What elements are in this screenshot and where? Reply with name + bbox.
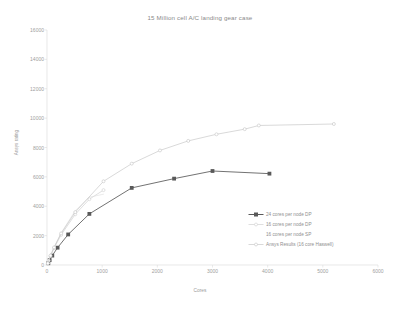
data-point (56, 246, 60, 250)
data-point (102, 189, 105, 192)
data-point (268, 172, 272, 176)
data-point (332, 123, 335, 126)
legend-item[interactable]: Ansys Results (16 core Haswell) (248, 239, 358, 249)
data-point (172, 177, 176, 181)
series-line-2 (48, 194, 104, 263)
legend-label: 24 cores per node DP (266, 210, 312, 219)
legend-swatch-icon (248, 230, 264, 239)
data-point (49, 254, 52, 257)
series-line-0 (48, 171, 269, 263)
data-point (158, 149, 161, 152)
series-2 (48, 194, 104, 263)
legend-swatch-icon (248, 220, 264, 229)
legend-swatch-icon (248, 240, 264, 249)
data-point (187, 139, 190, 142)
legend-item[interactable]: 16 cores per node SP (248, 229, 358, 239)
data-point (243, 128, 246, 131)
legend-label: 16 cores per node DP (266, 220, 312, 229)
data-point (130, 186, 134, 190)
data-point (46, 262, 49, 265)
legend-item[interactable]: 16 cores per node DP (248, 219, 358, 229)
legend-label: Ansys Results (16 core Haswell) (266, 240, 333, 249)
legend-item[interactable]: 24 cores per node DP (248, 209, 358, 219)
data-point (66, 233, 70, 237)
legend-label: 16 cores per node SP (266, 230, 311, 239)
data-point (211, 169, 215, 173)
data-point (257, 124, 260, 127)
data-point (102, 180, 105, 183)
chart-legend: 24 cores per node DP16 cores per node DP… (248, 209, 358, 249)
data-point (53, 246, 56, 249)
chart-container: 15 Million cell A/C landing gear case An… (0, 0, 400, 310)
data-point (130, 162, 133, 165)
series-0 (46, 169, 271, 265)
legend-swatch-icon (248, 210, 264, 219)
plot-area (0, 0, 400, 310)
data-point (60, 232, 63, 235)
data-point (87, 212, 91, 216)
data-point (215, 133, 218, 136)
data-point (74, 211, 77, 214)
